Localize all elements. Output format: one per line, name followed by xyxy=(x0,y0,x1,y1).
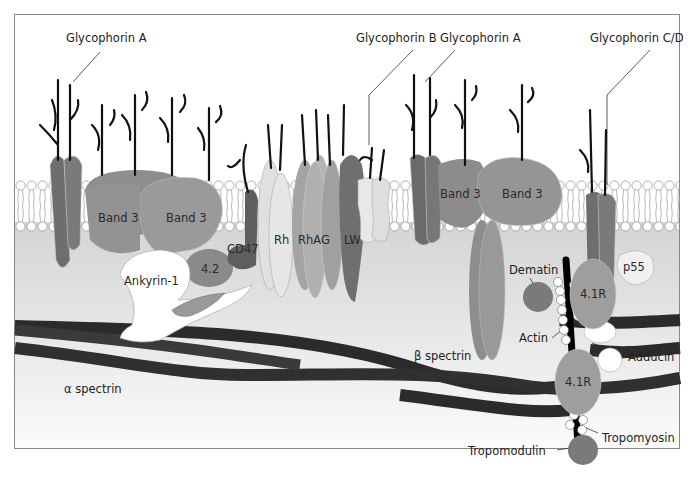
label-glycophorin-a-right: Glycophorin A xyxy=(440,33,521,45)
label-band3-3: Band 3 xyxy=(440,189,481,201)
label-cd47: CD47 xyxy=(227,244,259,256)
glycophorin-b-shape-2 xyxy=(372,178,390,241)
label-4-1r-bottom: 4.1R xyxy=(565,377,591,389)
label-adducin: Adducin xyxy=(628,352,674,364)
label-band3-1: Band 3 xyxy=(98,213,139,225)
label-rh: Rh xyxy=(274,235,289,247)
label-p55: p55 xyxy=(623,262,645,274)
label-actin: Actin xyxy=(519,333,548,345)
label-ankyrin: Ankyrin-1 xyxy=(124,276,179,288)
label-protein-4-2: 4.2 xyxy=(201,264,219,276)
label-dematin: Dematin xyxy=(509,265,558,277)
tropomodulin-shape xyxy=(568,435,598,465)
label-alpha-spectrin: α spectrin xyxy=(64,384,122,396)
label-tropomodulin: Tropomodulin xyxy=(468,446,546,458)
label-glycophorin-a-left: Glycophorin A xyxy=(66,33,147,45)
label-glycophorin-b: Glycophorin B xyxy=(356,33,437,45)
label-lw: LW xyxy=(344,235,361,247)
rbc-membrane-diagram: Glycophorin A Glycophorin B Glycophorin … xyxy=(0,0,695,481)
band3-right-tail-2 xyxy=(479,220,505,360)
label-band3-4: Band 3 xyxy=(502,189,543,201)
label-band3-2: Band 3 xyxy=(166,213,207,225)
adducin-shape-2 xyxy=(598,348,622,372)
label-rhag: RhAG xyxy=(298,235,330,247)
label-4-1r-top: 4.1R xyxy=(580,289,606,301)
label-glycophorin-cd: Glycophorin C/D xyxy=(590,33,684,45)
dematin-shape xyxy=(523,282,553,312)
label-tropomyosin: Tropomyosin xyxy=(602,433,675,445)
label-beta-spectrin: β spectrin xyxy=(414,351,471,363)
